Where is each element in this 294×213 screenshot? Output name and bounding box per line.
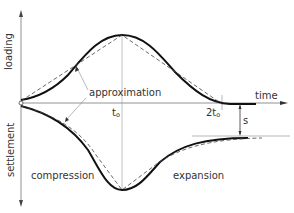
- time-axis-arrow-icon: [280, 101, 288, 105]
- y-axis-down-arrow-icon: [19, 200, 23, 207]
- expansion-label: expansion: [173, 171, 224, 181]
- y-axis-label-loading: loading: [4, 33, 14, 70]
- t0-label: to: [112, 108, 120, 119]
- y-axis-label-settlement: settlement: [6, 123, 16, 177]
- approximation-leader-lower: [66, 98, 86, 120]
- y-axis-up-arrow-icon: [19, 10, 23, 17]
- 2t0-label: 2to: [206, 108, 220, 119]
- x-axis-label-time: time: [255, 91, 278, 101]
- s-label: s: [243, 116, 248, 126]
- origin-marker: [19, 101, 23, 105]
- s-arrow-bottom-icon: [239, 131, 242, 136]
- compression-label: compression: [31, 171, 94, 181]
- approximation-label: approximation: [89, 88, 161, 98]
- approximation-leader-upper: [77, 68, 88, 90]
- loading-settlement-diagram: [0, 0, 294, 213]
